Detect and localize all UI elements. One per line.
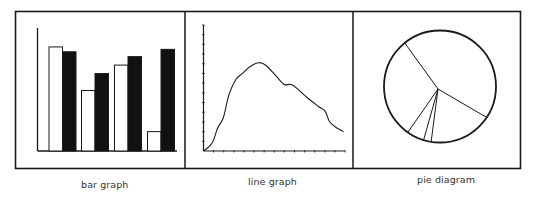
- line-chart: [202, 25, 345, 153]
- bar-white-1: [49, 47, 63, 151]
- bar-chart: [38, 28, 178, 151]
- pie-outline: [384, 31, 496, 143]
- bar-white-4: [148, 132, 162, 151]
- bar-black-2: [95, 74, 109, 151]
- data-line: [204, 63, 344, 151]
- pie-diagram-label: pie diagram: [417, 174, 475, 185]
- diagram-canvas: [0, 0, 535, 199]
- bar-black-4: [161, 49, 175, 151]
- bar-black-1: [63, 52, 77, 151]
- bar-graph-label: bar graph: [81, 179, 129, 190]
- line-graph-label: line graph: [248, 176, 297, 187]
- slice-boundary-A: [405, 43, 438, 89]
- slice-boundary-B: [438, 89, 487, 117]
- bar-white-3: [115, 65, 129, 151]
- slice-boundary-D: [424, 89, 438, 140]
- bar-black-3: [128, 57, 142, 151]
- bar-white-2: [82, 91, 96, 152]
- pie-chart: [384, 31, 496, 143]
